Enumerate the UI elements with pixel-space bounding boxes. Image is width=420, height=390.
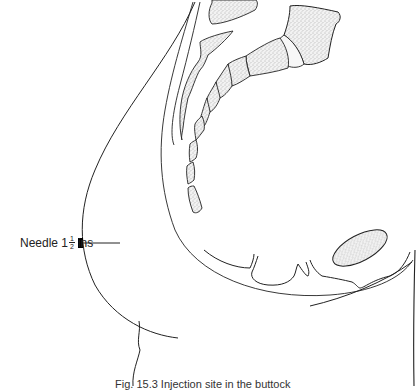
gluteal-fold	[133, 321, 140, 386]
needle-label-text: Needle 1	[20, 236, 68, 250]
sacrum-segment-1	[246, 38, 289, 76]
coccyx-segment-3	[187, 162, 195, 184]
needle-label: Needle 1 1 2 ins	[20, 235, 93, 250]
coccyx-segment-1	[195, 116, 205, 140]
ilium-fragment-top	[209, 0, 257, 24]
coccyx-segment-4	[188, 186, 202, 213]
needle-label-unit: ins	[78, 236, 93, 250]
coccyx-segment-2	[189, 140, 197, 162]
figure-caption: Fig. 15.3 Injection site in the buttock	[115, 378, 291, 390]
fraction-numerator: 1	[69, 235, 75, 243]
ischial-tuberosity	[327, 222, 392, 273]
thigh-contour	[310, 262, 412, 306]
thigh-edge-right	[414, 250, 415, 386]
perineum-contour	[204, 250, 410, 288]
fraction-denominator: 2	[70, 243, 74, 250]
needle-length-fraction: 1 2	[69, 235, 75, 250]
